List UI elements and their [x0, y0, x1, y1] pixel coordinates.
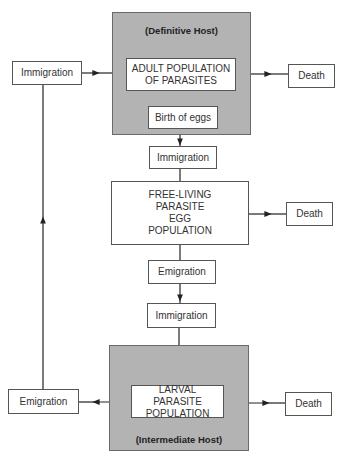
egg-immigration-label: Immigration [157, 152, 209, 164]
intermediate-host-label: (Intermediate Host) [110, 434, 248, 445]
death-middle-box: Death [286, 202, 333, 226]
larval-population-box: LARVAL PARASITE POPULATION [131, 385, 224, 418]
immigration-left-box: Immigration [12, 61, 82, 85]
free-living-egg-population-label: FREE-LIVING PARASITE EGG POPULATION [146, 189, 214, 237]
egg-emigration-box: Emigration [148, 260, 216, 284]
definitive-host-label: (Definitive Host) [113, 25, 250, 36]
larval-immigration-label: Immigration [155, 310, 207, 322]
death-middle-label: Death [296, 208, 323, 220]
larval-immigration-box: Immigration [147, 303, 216, 328]
egg-immigration-box: Immigration [149, 146, 217, 169]
death-top-box: Death [288, 64, 335, 88]
emigration-left-box: Emigration [8, 389, 79, 414]
free-living-egg-population-box: FREE-LIVING PARASITE EGG POPULATION [111, 181, 249, 245]
death-bottom-box: Death [285, 392, 332, 416]
immigration-left-label: Immigration [21, 67, 73, 79]
larval-population-label: LARVAL PARASITE POPULATION [134, 384, 221, 420]
adult-population-label: ADULT POPULATION OF PARASITES [130, 63, 232, 87]
egg-emigration-label: Emigration [158, 266, 206, 278]
emigration-left-label: Emigration [20, 396, 68, 408]
adult-population-box: ADULT POPULATION OF PARASITES [126, 58, 236, 91]
birth-of-eggs-box: Birth of eggs [148, 106, 218, 129]
death-bottom-label: Death [295, 398, 322, 410]
death-top-label: Death [298, 70, 325, 82]
birth-of-eggs-label: Birth of eggs [155, 112, 211, 124]
